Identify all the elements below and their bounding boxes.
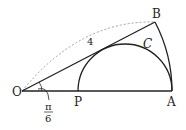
angle-pointer (38, 88, 49, 100)
geometry-diagram: O A B P C 4 π 6 (0, 0, 186, 130)
angle-numerator: π (45, 101, 52, 112)
segment-OB (22, 22, 155, 91)
label-C: C (143, 37, 152, 51)
angle-arc (39, 82, 42, 91)
label-B: B (152, 7, 161, 21)
angle-denominator: 6 (45, 113, 51, 124)
label-length: 4 (87, 36, 93, 47)
label-O: O (12, 85, 22, 99)
label-P: P (74, 95, 82, 109)
semicircle-C (78, 44, 172, 91)
label-A: A (166, 95, 176, 109)
